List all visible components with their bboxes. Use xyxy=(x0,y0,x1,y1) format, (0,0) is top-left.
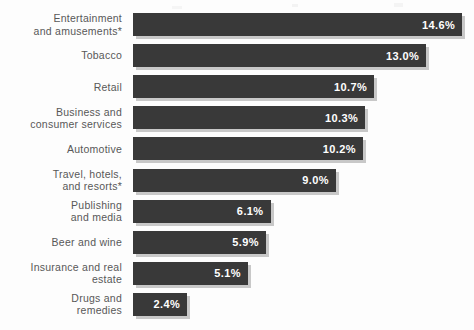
bar[interactable]: 5.1% xyxy=(133,262,248,285)
bar-category-label: Tobacco xyxy=(0,49,128,61)
bar-row: Entertainment and amusements*14.6% xyxy=(0,8,474,41)
bar-value-label: 2.4% xyxy=(153,298,180,310)
horizontal-bar-chart: Entertainment and amusements*14.6%Tobacc… xyxy=(0,0,474,330)
bar[interactable]: 6.1% xyxy=(133,200,271,223)
bar-row: Business and consumer services10.3% xyxy=(0,101,474,134)
bar-row: Publishing and media6.1% xyxy=(0,195,474,228)
bar-track: 10.2% xyxy=(133,137,363,160)
bar-value-label: 10.2% xyxy=(323,143,356,155)
bar-track: 10.7% xyxy=(133,75,374,98)
bar-track: 14.6% xyxy=(133,13,462,36)
bar-value-label: 5.1% xyxy=(214,267,241,279)
bar-category-label: Publishing and media xyxy=(0,199,128,223)
bar[interactable]: 10.2% xyxy=(133,137,363,160)
bar-category-label: Travel, hotels, and resorts* xyxy=(0,168,128,192)
bar-value-label: 10.7% xyxy=(334,81,367,93)
bar-category-label: Insurance and real estate xyxy=(0,261,128,285)
bar-row: Tobacco13.0% xyxy=(0,39,474,72)
bar-category-label: Entertainment and amusements* xyxy=(0,12,128,36)
bar-track: 6.1% xyxy=(133,200,271,223)
bar-row: Travel, hotels, and resorts*9.0% xyxy=(0,164,474,197)
bar-category-label: Retail xyxy=(0,81,128,93)
bar[interactable]: 13.0% xyxy=(133,44,426,67)
bar-row: Insurance and real estate5.1% xyxy=(0,257,474,290)
bar-value-label: 13.0% xyxy=(386,50,419,62)
scan-artifact xyxy=(292,4,298,7)
bar-track: 9.0% xyxy=(133,169,336,192)
bar[interactable]: 9.0% xyxy=(133,169,336,192)
bar-value-label: 14.6% xyxy=(422,19,455,31)
bar[interactable]: 10.3% xyxy=(133,106,365,129)
bar-row: Drugs and remedies2.4% xyxy=(0,288,474,321)
bar[interactable]: 10.7% xyxy=(133,75,374,98)
bar[interactable]: 14.6% xyxy=(133,13,462,36)
bar-row: Automotive10.2% xyxy=(0,132,474,165)
bar-row: Beer and wine5.9% xyxy=(0,226,474,259)
scan-artifact xyxy=(394,3,403,7)
bar-category-label: Drugs and remedies xyxy=(0,292,128,316)
bar-row: Retail10.7% xyxy=(0,70,474,103)
bar-track: 5.1% xyxy=(133,262,248,285)
bar-category-label: Automotive xyxy=(0,143,128,155)
bar-track: 5.9% xyxy=(133,231,266,254)
bar[interactable]: 2.4% xyxy=(133,293,187,316)
bar-category-label: Business and consumer services xyxy=(0,106,128,130)
bar-category-label: Beer and wine xyxy=(0,236,128,248)
bar[interactable]: 5.9% xyxy=(133,231,266,254)
bar-track: 13.0% xyxy=(133,44,426,67)
bar-value-label: 10.3% xyxy=(325,112,358,124)
bar-track: 2.4% xyxy=(133,293,187,316)
bar-value-label: 6.1% xyxy=(237,205,264,217)
bar-track: 10.3% xyxy=(133,106,365,129)
bar-value-label: 5.9% xyxy=(232,236,259,248)
bar-value-label: 9.0% xyxy=(302,174,329,186)
